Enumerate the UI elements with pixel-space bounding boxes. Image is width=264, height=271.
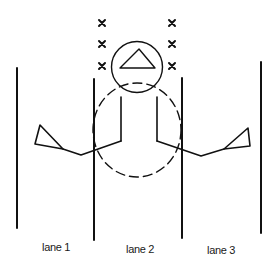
left-flag-triangle-icon (35, 125, 63, 149)
x-markers-right (169, 20, 175, 69)
left-arm (63, 141, 121, 155)
x-marker-icon (169, 63, 175, 69)
x-marker-icon (99, 20, 105, 26)
triangle-icon (120, 49, 155, 68)
lane-label-1: lane 1 (42, 241, 70, 253)
x-markers-left (99, 20, 105, 69)
lane-label-2: lane 2 (126, 243, 154, 255)
x-marker-icon (99, 41, 105, 47)
x-marker-icon (99, 63, 105, 69)
lane-label-3: lane 3 (207, 244, 235, 256)
dashed-circle (93, 83, 181, 177)
right-flag-triangle-icon (224, 128, 250, 149)
x-marker-icon (169, 41, 175, 47)
x-marker-icon (169, 20, 175, 26)
right-arm (157, 141, 224, 156)
lane-diagram (0, 0, 264, 271)
